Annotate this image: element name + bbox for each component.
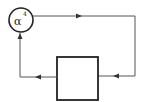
- arrow-left-icon: [113, 74, 119, 79]
- gain-label: α: [14, 15, 22, 28]
- arrow-left-icon: [35, 75, 41, 80]
- block-node: [57, 57, 98, 100]
- arrow-up-icon: [18, 33, 23, 39]
- gain-node: α 4: [9, 8, 33, 32]
- feedback-diagram: α 4: [0, 0, 144, 102]
- feedback-edge: [18, 33, 58, 80]
- gain-exponent: 4: [23, 10, 27, 17]
- arrow-right-icon: [76, 14, 82, 19]
